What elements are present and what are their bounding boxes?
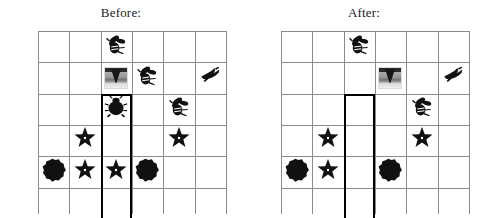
panel-title-after: After: [243,5,485,21]
star-icon [316,126,340,154]
grid-cell-blob[interactable] [375,156,406,187]
grid-cell-bee[interactable] [163,94,194,125]
star-icon [73,126,97,154]
grid-cell-star[interactable] [406,125,437,156]
star-icon [410,126,434,154]
panel-title-before: Before: [0,5,242,21]
grid-cell-tornado-photo[interactable] [375,62,406,93]
grid-cell-star[interactable] [312,156,343,187]
bee-icon [167,95,191,123]
grid-cell-star[interactable] [69,125,100,156]
grid-line-horizontal [38,94,226,95]
star-icon [167,126,191,154]
blob-icon [284,157,310,187]
grid-cell-tornado-photo[interactable] [101,62,132,93]
star-icon [104,158,128,186]
bee-icon [410,95,434,123]
grid-cell-bird[interactable] [438,62,469,93]
star-icon [73,158,97,186]
grid-cell-bee[interactable] [101,31,132,62]
grid-cell-star[interactable] [101,156,132,187]
grid-cell-bird[interactable] [195,62,226,93]
tornado-photo-icon [104,67,128,89]
bee-icon [135,64,159,92]
grid-line-horizontal [281,31,469,32]
grid-cell-bee[interactable] [132,62,163,93]
panel-before: Before: [0,0,242,218]
before-after-figure: Before:After: [0,0,485,218]
star-icon [316,158,340,186]
grid-cell-blob[interactable] [281,156,312,187]
tornado-photo-icon [378,67,402,89]
grid-line-horizontal [281,125,469,126]
beetle-icon [104,95,128,123]
bee-icon [347,33,371,61]
grid-cell-star[interactable] [312,125,343,156]
grid-cell-bee[interactable] [344,31,375,62]
grid-after [281,31,469,214]
grid-cell-bee[interactable] [406,94,437,125]
bird-icon [440,65,466,91]
grid-cell-blob[interactable] [38,156,69,187]
blob-icon [41,157,67,187]
bee-icon [104,33,128,61]
bird-icon [197,65,223,91]
grid-cell-star[interactable] [69,156,100,187]
grid-line-horizontal [281,188,469,189]
blob-icon [377,157,403,187]
grid-line-horizontal [38,31,226,32]
grid-line-horizontal [38,125,226,126]
panel-after: After: [243,0,485,218]
grid-cell-beetle[interactable] [101,94,132,125]
grid-line-horizontal [38,188,226,189]
grid-cell-star[interactable] [163,125,194,156]
grid-cell-blob[interactable] [132,156,163,187]
grid-before [38,31,226,214]
grid-line-horizontal [281,94,469,95]
blob-icon [134,157,160,187]
